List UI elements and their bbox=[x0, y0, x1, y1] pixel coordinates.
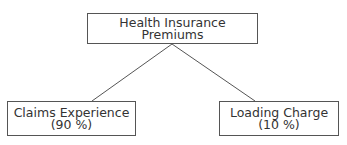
root-node-label: Health Insurance Premiums bbox=[88, 17, 257, 41]
connector-root-to-loading bbox=[172, 44, 255, 101]
child-node-claims-experience: Claims Experience (90 %) bbox=[7, 101, 136, 136]
loading-charge-share: (10 %) bbox=[258, 119, 300, 131]
root-node-health-insurance-premiums: Health Insurance Premiums bbox=[87, 13, 258, 44]
connector-root-to-claims bbox=[92, 44, 172, 101]
claims-experience-share: (90 %) bbox=[51, 119, 93, 131]
child-node-loading-charge: Loading Charge (10 %) bbox=[219, 101, 339, 136]
